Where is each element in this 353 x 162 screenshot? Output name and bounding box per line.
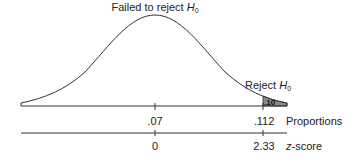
zscore-axis-title: z-score xyxy=(286,140,322,152)
score-text: -score xyxy=(292,140,323,152)
proportions-axis-title: Proportions xyxy=(286,115,342,127)
proportion-tick-label-mean: .07 xyxy=(147,115,162,127)
distribution-diagram xyxy=(0,0,353,162)
proportion-tick-label-critical: .112 xyxy=(254,115,275,127)
zscore-tick-label-zero: 0 xyxy=(152,140,158,152)
fail-to-reject-label: Failed to reject H0 xyxy=(111,1,198,17)
h-symbol: H xyxy=(279,79,287,91)
reject-label: Reject H0 xyxy=(245,79,291,95)
reject-text: Reject xyxy=(245,79,279,91)
h-subscript: 0 xyxy=(195,7,199,14)
shaded-area-label: .10 xyxy=(264,99,275,107)
h-symbol: H xyxy=(187,1,195,13)
fail-to-reject-text: Failed to reject xyxy=(111,1,186,13)
h-subscript: 0 xyxy=(287,85,291,92)
zscore-tick-label-critical: 2.33 xyxy=(253,140,274,152)
